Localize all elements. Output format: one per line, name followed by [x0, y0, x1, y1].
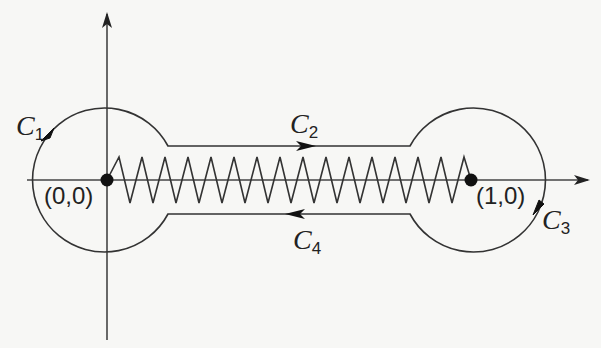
origin-point: [101, 174, 114, 187]
contour-diagram: [0, 0, 601, 348]
label-origin: (0,0): [44, 184, 93, 208]
label-c3: C3: [542, 206, 570, 237]
label-point-one: (1,0): [476, 184, 525, 208]
label-c1: C1: [16, 112, 44, 143]
label-c2: C2: [290, 110, 318, 141]
label-c4: C4: [293, 226, 321, 257]
